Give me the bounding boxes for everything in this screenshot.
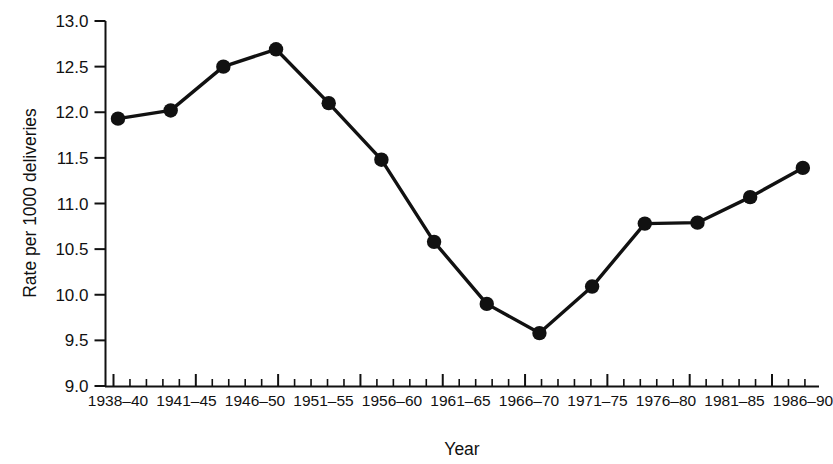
chart-container: 9.09.510.010.511.011.512.012.513.0 1938–… xyxy=(0,0,833,464)
y-axis-tick-label: 9.5 xyxy=(65,331,89,350)
x-axis-tick-labels: 1938–401941–451946–501951–551956–601961–… xyxy=(88,392,833,409)
x-axis-title: Year xyxy=(444,439,480,459)
data-point xyxy=(532,326,546,340)
x-axis-tick-label: 1941–45 xyxy=(156,392,216,409)
data-point xyxy=(585,279,599,293)
x-axis-tick-label: 1986–90 xyxy=(773,392,833,409)
data-point xyxy=(690,215,704,229)
data-point xyxy=(163,103,177,117)
y-axis-tick-label: 11.5 xyxy=(57,149,89,168)
y-axis-tick-label: 12.0 xyxy=(55,103,88,122)
data-point xyxy=(638,216,652,230)
x-axis-tick-label: 1966–70 xyxy=(499,392,560,409)
x-axis-tick-label: 1961–65 xyxy=(430,392,490,409)
y-axis-title: Rate per 1000 deliveries xyxy=(20,108,40,298)
x-axis-tick-label: 1971–75 xyxy=(567,392,627,409)
data-point xyxy=(216,59,230,73)
data-point xyxy=(111,111,125,125)
data-point xyxy=(743,190,757,204)
y-axis-tick-label: 12.5 xyxy=(55,58,88,77)
data-point xyxy=(480,297,494,311)
y-axis-tick-label: 9.0 xyxy=(65,377,89,396)
x-axis-tick-label: 1951–55 xyxy=(293,392,353,409)
x-axis-tick-label: 1981–85 xyxy=(704,392,764,409)
x-axis-tick-label: 1938–40 xyxy=(88,392,149,409)
data-point xyxy=(427,235,441,249)
x-axis-tick-label: 1976–80 xyxy=(636,392,697,409)
y-axis-tick-label: 10.5 xyxy=(55,240,88,259)
x-axis-tick-label: 1946–50 xyxy=(225,392,286,409)
y-axis-tick-label: 13.0 xyxy=(55,12,88,31)
data-point xyxy=(796,161,810,175)
y-axis-tick-label: 11.0 xyxy=(57,195,89,214)
x-axis-tick-label: 1956–60 xyxy=(362,392,423,409)
data-point xyxy=(374,153,388,167)
y-axis-tick-label: 10.0 xyxy=(55,286,88,305)
line-chart: 9.09.510.010.511.011.512.012.513.0 1938–… xyxy=(0,0,833,464)
data-point xyxy=(269,42,283,56)
data-point xyxy=(322,96,336,110)
